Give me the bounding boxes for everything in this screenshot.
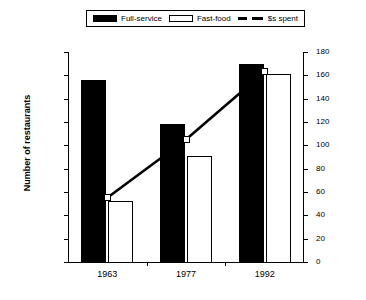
x-axis-tick-label: 1977: [156, 270, 216, 279]
line-series-layer: [68, 52, 304, 263]
chart-legend: Full-service Fast-food $s spent: [86, 10, 305, 27]
open-square-swatch-icon: [169, 15, 193, 22]
legend-item-fast-food: Fast-food: [169, 15, 231, 23]
y-axis-right-tick-label: 140: [316, 95, 329, 103]
line-data-point-marker: [183, 136, 190, 143]
y-axis-right-tick-label: 80: [316, 165, 325, 173]
filled-square-swatch-icon: [93, 15, 117, 22]
y-axis-right-tick-label: 160: [316, 71, 329, 79]
line-data-point-marker: [104, 194, 111, 201]
plot-area: 180,000160,000140,000120,000100,00080,00…: [68, 52, 304, 262]
y-axis-right-tick-label: 120: [316, 118, 329, 126]
legend-label-fast-food: Fast-food: [197, 15, 231, 23]
y-axis-right-tick-label: 100: [316, 141, 329, 149]
y-axis-right-tick-label: 180: [316, 48, 329, 56]
legend-item-full-service: Full-service: [93, 15, 162, 23]
x-axis-tick-label: 1992: [235, 270, 295, 279]
y-axis-right-tick-label: 20: [316, 235, 325, 243]
legend-label-full-service: Full-service: [121, 15, 162, 23]
y-axis-left-title: Number of restaurants: [22, 63, 32, 223]
chart-container: Full-service Fast-food $s spent Number o…: [0, 0, 366, 300]
dollars-spent-line: [107, 72, 264, 198]
legend-item-dollars-spent: $s spent: [238, 15, 298, 23]
y-axis-right-tick-label: 0: [316, 258, 320, 266]
y-axis-right-tick-label: 60: [316, 188, 325, 196]
dashed-line-swatch-icon: [238, 15, 264, 22]
line-data-point-marker: [261, 68, 268, 75]
legend-label-dollars-spent: $s spent: [268, 15, 298, 23]
y-axis-right-tick-label: 40: [316, 211, 325, 219]
x-axis-tick-label: 1963: [77, 270, 137, 279]
